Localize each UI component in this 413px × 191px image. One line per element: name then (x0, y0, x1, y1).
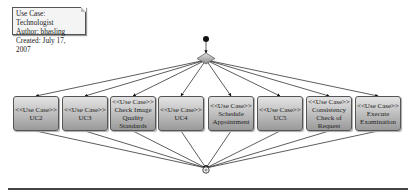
use-case-stereotype: <<Use Case>> (160, 106, 202, 114)
use-case-box[interactable]: <<Use Case>>UC2 (13, 96, 59, 131)
use-case-name: Execute Examination (356, 110, 400, 126)
use-case-name: UC3 (78, 114, 91, 122)
use-case-name: UC2 (29, 114, 42, 122)
use-case-box[interactable]: <<Use Case>>Schedule Appointment (208, 96, 254, 131)
use-case-box[interactable]: <<Use Case>>UC3 (62, 96, 108, 131)
use-case-stereotype: <<Use Case>> (308, 98, 350, 106)
use-case-box[interactable]: <<Use Case>>Execute Examination (355, 96, 401, 131)
use-case-box[interactable]: <<Use Case>>UC4 (158, 96, 204, 131)
use-case-stereotype: <<Use Case>> (112, 98, 154, 106)
use-case-box[interactable]: <<Use Case>>Consistency Check of Request (306, 96, 352, 131)
use-case-name: UC4 (174, 114, 187, 122)
use-case-stereotype: <<Use Case>> (259, 106, 301, 114)
use-case-name: UC5 (273, 114, 286, 122)
use-case-stereotype: <<Use Case>> (15, 106, 57, 114)
bottom-rule (8, 188, 408, 190)
use-case-stereotype: <<Use Case>> (357, 102, 399, 110)
use-case-stereotype: <<Use Case>> (210, 102, 252, 110)
flow-connectors (0, 0, 413, 191)
decision-node (197, 53, 215, 64)
use-case-name: Check Image Quality Standards (111, 106, 155, 130)
use-case-name: Consistency Check of Request (307, 106, 351, 130)
use-case-box[interactable]: <<Use Case>>UC5 (257, 96, 303, 131)
use-case-name: Schedule Appointment (209, 110, 253, 126)
use-case-stereotype: <<Use Case>> (64, 106, 106, 114)
start-node (203, 36, 209, 42)
use-case-box[interactable]: <<Use Case>>Check Image Quality Standard… (110, 96, 156, 131)
